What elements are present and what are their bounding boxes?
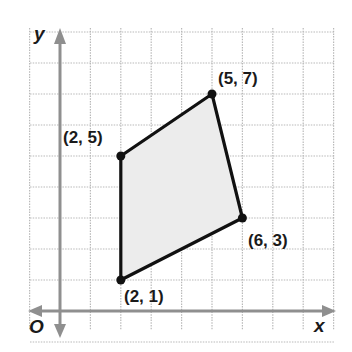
origin-label: O: [29, 316, 44, 337]
vertex-point: [116, 276, 125, 285]
vertex-point: [238, 214, 247, 223]
vertex-label-6-3: (6, 3): [248, 231, 288, 250]
coordinate-plane: y x O (2, 1) (2, 5) (5, 7) (6, 3): [0, 0, 352, 352]
vertex-label-2-1: (2, 1): [124, 287, 164, 306]
y-axis-down-arrow-icon: [54, 324, 66, 338]
vertex-point: [116, 152, 125, 161]
x-axis-label: x: [313, 315, 326, 336]
vertex-point: [208, 90, 217, 99]
y-axis-up-arrow-icon: [54, 28, 66, 44]
y-axis-label: y: [33, 23, 46, 44]
vertex-label-2-5: (2, 5): [63, 128, 103, 147]
vertex-label-5-7: (5, 7): [218, 69, 258, 88]
